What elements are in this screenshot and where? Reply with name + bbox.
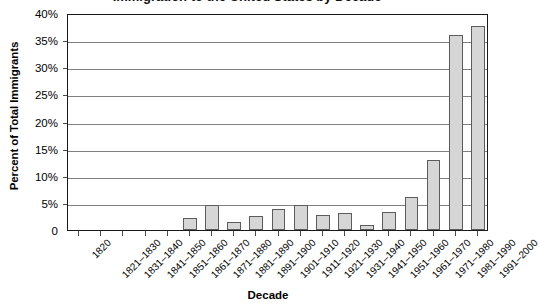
bar <box>294 13 308 230</box>
bar <box>316 13 330 230</box>
bar-rect <box>205 205 219 230</box>
bar <box>227 13 241 230</box>
bar <box>405 13 419 230</box>
bar <box>272 13 286 230</box>
bar-rect <box>471 26 485 230</box>
bar <box>183 13 197 230</box>
y-axis-tick-label: 15% <box>35 144 58 156</box>
bar <box>382 13 396 230</box>
bar-rect <box>272 209 286 230</box>
bar-rect <box>449 35 463 230</box>
bar <box>471 13 485 230</box>
bar <box>427 13 441 230</box>
chart-title: Immigration to the United States by Deca… <box>0 0 494 4</box>
bar <box>360 13 374 230</box>
y-axis-tick-label: 10% <box>35 171 58 183</box>
x-axis-tick-labels: 18201821–18301831–18401841–18501851–1860… <box>0 231 494 293</box>
bar-rect <box>316 215 330 230</box>
bar <box>205 13 219 230</box>
bar-rect <box>294 205 308 230</box>
y-axis-tick-label: 35% <box>35 35 58 47</box>
bar-rect <box>249 216 263 230</box>
bar-rect <box>183 218 197 230</box>
bar-series <box>68 15 487 230</box>
bar-rect <box>338 213 352 230</box>
bar-rect <box>382 212 396 230</box>
x-axis-tick-label: 1820 <box>90 237 114 261</box>
y-axis-tick-label: 40% <box>35 8 58 20</box>
y-axis-tick-label: 20% <box>35 117 58 129</box>
y-axis-tick-label: 25% <box>35 89 58 101</box>
bar-rect <box>227 222 241 230</box>
bar <box>449 13 463 230</box>
y-axis-tick-label: 30% <box>35 62 58 74</box>
bar-rect <box>405 197 419 230</box>
bar-rect <box>360 225 374 230</box>
y-axis-tick-label: 5% <box>41 198 58 210</box>
bar <box>249 13 263 230</box>
plot-area <box>67 14 488 231</box>
bar <box>338 13 352 230</box>
chart-title-cropped: Immigration to the United States by Deca… <box>0 0 494 4</box>
bar-rect <box>427 160 441 230</box>
y-axis-tick-labels: 05%10%15%20%25%30%35%40% <box>0 0 67 245</box>
x-axis-title: Decade <box>0 289 494 301</box>
